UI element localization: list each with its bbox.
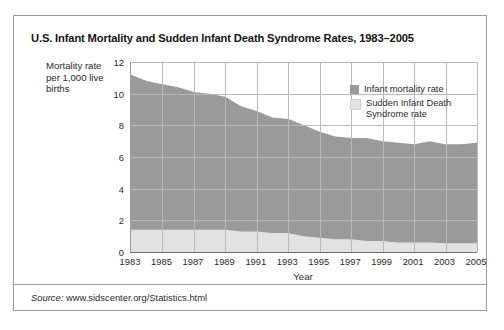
y-axis-tick-label: 4	[119, 183, 124, 194]
gridline-vertical	[320, 62, 321, 252]
source-prefix: Source:	[31, 292, 63, 303]
gridline-vertical	[194, 62, 195, 252]
source-url: www.sidscenter.org/Statistics.html	[66, 292, 207, 303]
y-axis-tick-label: 10	[114, 88, 124, 99]
legend-label: Infant mortality rate	[364, 84, 444, 95]
x-axis-tick-label: 2003	[434, 256, 455, 267]
legend-swatch-icon	[350, 85, 359, 94]
y-axis-label: Mortality rate per 1,000 live births	[46, 60, 108, 95]
page-title: U.S. Infant Mortality and Sudden Infant …	[31, 32, 471, 44]
y-axis-tick-label: 12	[114, 57, 124, 68]
gridline-vertical	[257, 62, 258, 252]
gridline-horizontal	[131, 62, 477, 63]
legend-item-sids: Sudden Infant Death Syndrome rate	[350, 98, 482, 120]
legend-label: Sudden Infant Death Syndrome rate	[366, 98, 482, 120]
y-axis-tick-label: 6	[119, 152, 124, 163]
gridline-horizontal	[131, 220, 477, 221]
gridline-vertical	[288, 62, 289, 252]
x-axis-tick-label: 1985	[151, 256, 172, 267]
x-axis-tick-layer: 1983198519871989199119931995199719992001…	[130, 256, 476, 270]
x-axis-tick-label: 1989	[214, 256, 235, 267]
gridline-horizontal	[131, 157, 477, 158]
y-axis-tick-label: 8	[119, 120, 124, 131]
x-axis-tick-label: 1983	[120, 256, 141, 267]
x-axis-tick-label: 1991	[245, 256, 266, 267]
x-axis-tick-label: 2001	[403, 256, 424, 267]
legend-swatch-icon	[350, 99, 361, 110]
source-note: Source: www.sidscenter.org/Statistics.ht…	[31, 292, 207, 303]
chart-legend: Infant mortality rate Sudden Infant Deat…	[350, 84, 482, 123]
gridline-horizontal	[131, 189, 477, 190]
x-axis-tick-label: 1997	[340, 256, 361, 267]
footer-divider	[14, 284, 486, 285]
figure-card: U.S. Infant Mortality and Sudden Infant …	[13, 15, 487, 311]
x-axis-label: Year	[130, 271, 476, 282]
y-axis-tick-layer: 024681012	[106, 62, 128, 252]
x-axis-tick-label: 1987	[182, 256, 203, 267]
gridline-horizontal	[131, 125, 477, 126]
legend-item-infant-mortality: Infant mortality rate	[350, 84, 482, 95]
gridline-vertical	[162, 62, 163, 252]
x-axis-tick-label: 2005	[466, 256, 487, 267]
x-axis-tick-label: 1999	[371, 256, 392, 267]
x-axis-tick-label: 1995	[308, 256, 329, 267]
gridline-vertical	[225, 62, 226, 252]
y-axis-tick-label: 2	[119, 215, 124, 226]
x-axis-tick-label: 1993	[277, 256, 298, 267]
